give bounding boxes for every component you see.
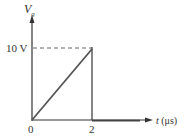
x-axis-label: t (μs) — [156, 115, 177, 126]
y-axis-subscript: g — [31, 10, 35, 18]
x-axis-var: t — [156, 115, 159, 126]
y-tick-10v: 10 V — [6, 43, 28, 54]
x-tick-2: 2 — [89, 124, 95, 135]
x-axis-unit: (μs) — [161, 115, 177, 126]
x-tick-0: 0 — [28, 124, 34, 135]
y-axis-label: Vg — [24, 4, 35, 20]
x-axis-arrow-icon — [145, 118, 153, 123]
chart-figure: Vg 10 V 0 2 t (μs) — [0, 0, 192, 136]
waveform-line — [32, 49, 92, 120]
